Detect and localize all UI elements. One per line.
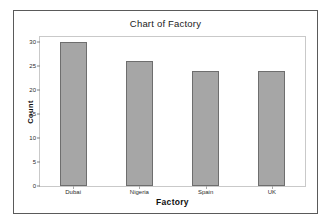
x-tick-label-dubai: Dubai xyxy=(65,189,81,195)
y-tick-label: 25 xyxy=(29,63,36,69)
y-tick-label: 0 xyxy=(33,183,36,189)
y-tick-mark xyxy=(37,89,40,90)
y-tick-mark xyxy=(37,41,40,42)
bar-uk[interactable] xyxy=(258,71,285,186)
y-tick-label: 30 xyxy=(29,39,36,45)
y-tick-label: 20 xyxy=(29,87,36,93)
y-tick-mark xyxy=(37,113,40,114)
y-tick-mark xyxy=(37,161,40,162)
bar-nigeria[interactable] xyxy=(126,61,153,186)
y-axis-title: Count xyxy=(26,100,35,124)
x-tick-label-nigeria: Nigeria xyxy=(130,189,149,195)
y-tick-mark xyxy=(37,186,40,187)
plot-area: 051015202530DubaiNigeriaSpainUK Count Fa… xyxy=(39,36,306,187)
y-tick-label: 10 xyxy=(29,135,36,141)
y-tick-mark xyxy=(37,137,40,138)
bar-spain[interactable] xyxy=(192,71,219,186)
chart-figure: Chart of Factory 051015202530DubaiNigeri… xyxy=(13,10,318,214)
chart-title: Chart of Factory xyxy=(14,18,317,29)
plot-inner: 051015202530DubaiNigeriaSpainUK xyxy=(40,37,305,186)
bar-dubai[interactable] xyxy=(60,42,87,186)
x-tick-label-uk: UK xyxy=(268,189,276,195)
y-tick-label: 5 xyxy=(33,159,36,165)
x-axis-title: Factory xyxy=(40,197,305,207)
x-tick-label-spain: Spain xyxy=(198,189,213,195)
y-tick-mark xyxy=(37,65,40,66)
